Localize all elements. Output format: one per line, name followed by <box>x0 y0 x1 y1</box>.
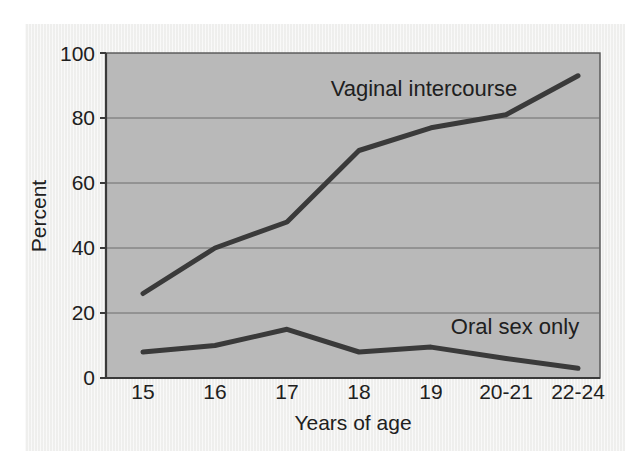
x-tick-label-19: 19 <box>419 380 442 403</box>
y-axis-title: Percent <box>27 180 50 253</box>
y-tick-label-100: 100 <box>60 42 95 65</box>
x-tick-label-22-24: 22-24 <box>551 380 605 403</box>
x-tick-label-17: 17 <box>275 380 298 403</box>
x-tick-label-18: 18 <box>347 380 370 403</box>
line-chart: 0 20 40 60 80 100 Percent 15 16 17 18 19… <box>0 0 631 471</box>
y-tick-label-0: 0 <box>83 366 95 389</box>
x-tick-label-15: 15 <box>131 380 154 403</box>
x-tick-label-16: 16 <box>203 380 226 403</box>
y-tick-label-80: 80 <box>72 106 95 129</box>
figure-container: 0 20 40 60 80 100 Percent 15 16 17 18 19… <box>0 0 631 471</box>
x-tick-label-20-21: 20-21 <box>479 380 533 403</box>
y-tick-label-40: 40 <box>72 236 95 259</box>
y-tick-label-20: 20 <box>72 301 95 324</box>
x-axis-title: Years of age <box>294 411 411 434</box>
y-tick-label-60: 60 <box>72 171 95 194</box>
series-label-vaginal-intercourse: Vaginal intercourse <box>331 76 518 101</box>
series-label-oral-sex-only: Oral sex only <box>451 314 579 339</box>
